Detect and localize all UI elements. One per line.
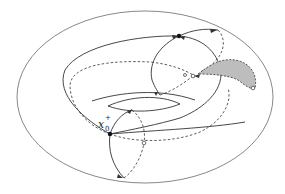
fixed-point-open-right xyxy=(251,86,255,90)
fixed-point-open-small xyxy=(184,74,187,77)
point-label-subscript: 0 xyxy=(105,125,109,133)
dashed-orbit-loop xyxy=(70,62,193,134)
arrow-icon xyxy=(194,74,200,78)
torus-outer-boundary xyxy=(17,11,273,183)
torus-diagram: x + 0 xyxy=(0,0,285,194)
upper-left-dashed-arc xyxy=(132,110,145,143)
upper-dashed-mid xyxy=(160,76,193,95)
solid-orbit-right xyxy=(110,122,245,134)
point-label-superscript: + xyxy=(105,114,111,122)
fixed-point-open-lower xyxy=(142,141,146,145)
lower-dashed-branch xyxy=(124,143,144,178)
shaded-region xyxy=(198,60,256,89)
arrow-icon xyxy=(154,92,158,96)
solid-orbit-loop xyxy=(63,36,221,134)
point-label: x xyxy=(98,118,105,131)
lower-solid-branch xyxy=(110,134,124,178)
torus-hole-upper xyxy=(92,93,195,101)
torus-hole-lower xyxy=(108,97,180,111)
upper-unstable-branch-left xyxy=(151,36,179,95)
